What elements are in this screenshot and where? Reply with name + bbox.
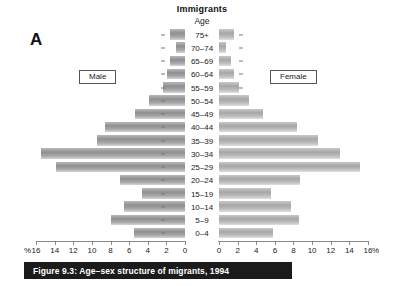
axis-tick-label-left-4: 4 [146, 246, 150, 255]
row-tick-left [161, 127, 165, 128]
pyramid-row: 40–44 [0, 121, 404, 134]
row-tick-right [239, 34, 243, 35]
row-tick-left [161, 193, 165, 194]
percent-symbol-left: % [24, 246, 31, 255]
axis-tick-right-10 [312, 241, 313, 245]
row-tick-left [161, 220, 165, 221]
axis-tick-left-16 [36, 241, 37, 245]
row-tick-left [161, 74, 165, 75]
axis-tick-right-4 [256, 241, 257, 245]
bar-female-4549 [219, 109, 263, 120]
axis-tick-label-left-8: 8 [108, 246, 112, 255]
age-group-label: 70–74 [166, 43, 238, 52]
figure-panel: Immigrants Age A Male Female 75+70–7465–… [0, 0, 404, 286]
axis-tick-right-0 [219, 241, 220, 245]
pyramid-row: 75+ [0, 28, 404, 41]
axis-tick-label-left-14: 14 [50, 246, 59, 255]
row-tick-left [161, 180, 165, 181]
axis-tick-label-right-4: 4 [254, 246, 258, 255]
figure-caption: Figure 9.3: Age–sex structure of migrant… [24, 262, 292, 279]
row-tick-left [161, 61, 165, 62]
chart-title: Immigrants [0, 4, 404, 14]
axis-tick-left-0 [185, 241, 186, 245]
axis-tick-left-4 [148, 241, 149, 245]
bar-female-2024 [219, 175, 300, 186]
row-tick-left [161, 233, 165, 234]
pyramid-row: 25–29 [0, 161, 404, 174]
axis-tick-label-left-12: 12 [69, 246, 78, 255]
row-tick-right [239, 61, 243, 62]
pyramid-row: 35–39 [0, 134, 404, 147]
axis-tick-right-12 [331, 241, 332, 245]
axis-tick-left-2 [166, 241, 167, 245]
axis-tick-label-right-0: 0 [217, 246, 221, 255]
pyramid-row: 50–54 [0, 94, 404, 107]
axis-tick-label-right-8: 8 [291, 246, 295, 255]
axis-tick-left-14 [55, 241, 56, 245]
row-tick-left [161, 140, 165, 141]
axis-tick-left-12 [73, 241, 74, 245]
bar-female-75+ [219, 29, 234, 40]
axis-tick-right-14 [349, 241, 350, 245]
axis-tick-right-8 [293, 241, 294, 245]
pyramid-row: 15–19 [0, 187, 404, 200]
pyramid-row: 10–14 [0, 200, 404, 213]
bar-female-5559 [219, 82, 239, 93]
pyramid-row: 70–74 [0, 41, 404, 54]
axis-tick-left-10 [92, 241, 93, 245]
bar-female-4044 [219, 122, 297, 133]
bar-female-7074 [219, 42, 226, 53]
axis-tick-label-right-14: 14 [345, 246, 354, 255]
axis-tick-right-6 [275, 241, 276, 245]
row-tick-left [161, 167, 165, 168]
axis-tick-left-8 [111, 241, 112, 245]
axis-tick-label-left-10: 10 [87, 246, 96, 255]
axis-tick-label-left-6: 6 [127, 246, 131, 255]
bar-female-5054 [219, 95, 249, 106]
axis-tick-label-left-16: 16 [32, 246, 41, 255]
bar-female-1519 [219, 188, 271, 199]
axis-tick-right-2 [238, 241, 239, 245]
axis-tick-label-left-2: 2 [164, 246, 168, 255]
bar-female-59 [219, 215, 299, 226]
pyramid-row: 60–64 [0, 68, 404, 81]
row-tick-left [161, 100, 165, 101]
axis-tick-left-6 [129, 241, 130, 245]
row-tick-left [161, 114, 165, 115]
row-tick-left [161, 34, 165, 35]
row-tick-left [161, 206, 165, 207]
axis-tick-label-right-10: 10 [308, 246, 317, 255]
axis-tick-label-right-6: 6 [273, 246, 277, 255]
bar-female-2529 [219, 162, 360, 173]
pyramid-plot-area: 75+70–7465–6960–6455–5950–5445–4940–4435… [0, 28, 404, 240]
bar-female-6569 [219, 56, 231, 67]
pyramid-row: 20–24 [0, 174, 404, 187]
row-tick-left [161, 87, 165, 88]
bar-female-6064 [219, 69, 234, 80]
bar-female-3034 [219, 148, 340, 159]
pyramid-row: 65–69 [0, 55, 404, 68]
row-tick-left [161, 153, 165, 154]
row-tick-right [239, 74, 243, 75]
row-tick-left [161, 47, 165, 48]
percent-symbol-right: % [372, 246, 379, 255]
row-tick-right [239, 47, 243, 48]
axis-tick-right-16 [368, 241, 369, 245]
axis-tick-label-left-0: 0 [183, 246, 187, 255]
axis-tick-label-right-12: 12 [326, 246, 335, 255]
pyramid-row: 45–49 [0, 108, 404, 121]
bar-female-04 [219, 228, 273, 239]
row-tick-right [239, 87, 243, 88]
bar-female-3539 [219, 135, 318, 146]
pyramid-row: 30–34 [0, 147, 404, 160]
bar-female-1014 [219, 201, 291, 212]
pyramid-row: 5–9 [0, 214, 404, 227]
pyramid-row: 55–59 [0, 81, 404, 94]
age-axis-header: Age [0, 16, 404, 26]
axis-tick-label-right-2: 2 [235, 246, 239, 255]
pyramid-row: 0–4 [0, 227, 404, 240]
